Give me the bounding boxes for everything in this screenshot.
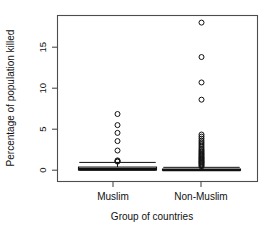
boxplot-figure: 0 5 10 15 Percentage of population kille… [0,0,272,235]
outlier-point [199,55,204,60]
box-group-non-muslim [163,20,241,170]
y-tick-label-5: 5 [37,127,48,132]
y-axis-title: Percentage of population killed [5,30,16,167]
x-axis-ticks [113,182,201,188]
plot-frame [58,16,258,182]
outlier-group [199,20,204,169]
box-groups [79,20,241,170]
outlier-point [199,20,204,25]
x-axis-title: Group of countries [111,211,193,222]
x-tick-label-non-muslim: Non-Muslim [174,191,227,202]
outlier-point [115,130,120,135]
outlier-point [115,123,120,128]
outlier-group [115,112,120,165]
outlier-point [115,112,120,117]
outlier-point [199,97,204,102]
y-axis-ticks [52,47,58,170]
box-group-muslim [79,112,157,171]
outlier-point [115,139,120,144]
y-axis-tick-labels: 0 5 10 15 [37,42,48,173]
x-tick-label-muslim: Muslim [97,191,129,202]
y-tick-label-0: 0 [37,168,48,173]
y-tick-label-15: 15 [37,42,48,53]
outlier-point [115,148,120,153]
y-tick-label-10: 10 [37,83,48,94]
boxplot-canvas: 0 5 10 15 Percentage of population kille… [0,0,272,235]
outlier-point [199,80,204,85]
